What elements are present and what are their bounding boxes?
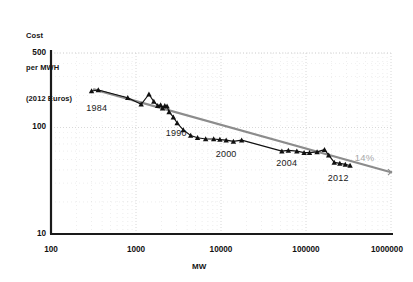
annotation-learning-rate: 14% [355,152,375,163]
annotation-1984: 1984 [86,103,107,113]
annotation-2012: 2012 [328,173,349,183]
annotation-2004: 2004 [276,158,297,168]
axis-lines [50,50,393,234]
plot-surface [0,0,413,282]
annotation-2000: 2000 [216,149,237,159]
learning-curve-chart: Cost per MWH (2012 Euros) MW 500 100 10 … [0,0,413,282]
annotation-1990: 1990 [166,128,187,138]
gridlines [51,53,391,234]
